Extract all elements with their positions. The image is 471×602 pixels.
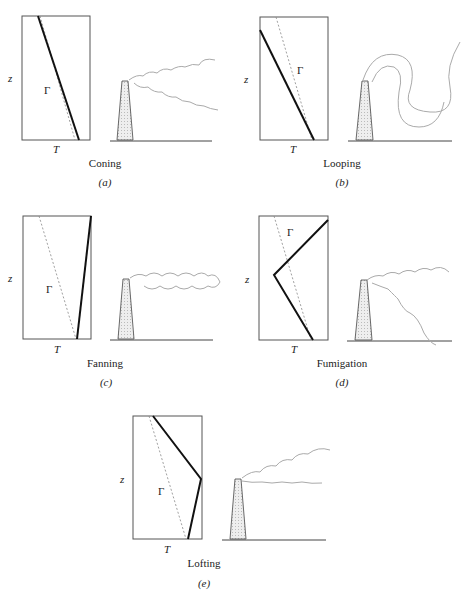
z-axis-label: z <box>245 273 249 285</box>
gamma-label: Γ <box>297 64 303 76</box>
t-axis-label: T <box>54 343 60 355</box>
z-axis-label: z <box>120 473 124 485</box>
panel-title: Lofting <box>144 557 264 569</box>
t-axis-label: T <box>164 543 170 555</box>
z-axis-label: z <box>8 72 12 84</box>
panel-coning <box>22 16 218 141</box>
gamma-label: Γ <box>158 485 164 497</box>
t-axis-label: T <box>290 143 296 155</box>
panel-letter: (a) <box>85 176 125 188</box>
z-axis-label: z <box>244 73 248 85</box>
t-axis-label: T <box>291 343 297 355</box>
panel-title: Fumigation <box>282 357 402 369</box>
panel-letter: (d) <box>322 376 362 388</box>
panel-fanning <box>23 216 220 340</box>
panel-title: Fanning <box>45 357 165 369</box>
panel-title: Coning <box>45 157 165 169</box>
panel-letter: (b) <box>322 176 362 188</box>
gamma-label: Γ <box>46 283 52 295</box>
gamma-label: Γ <box>287 226 293 238</box>
z-axis-label: z <box>8 272 12 284</box>
panel-letter: (c) <box>86 376 126 388</box>
panel-looping <box>260 17 460 141</box>
panel-title: Looping <box>282 157 402 169</box>
gamma-label: Γ <box>44 84 50 96</box>
panel-lofting <box>133 416 330 540</box>
plume-diagram <box>0 0 471 602</box>
panel-letter: (e) <box>184 577 224 589</box>
t-axis-label: T <box>53 143 59 155</box>
